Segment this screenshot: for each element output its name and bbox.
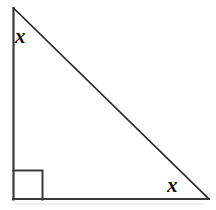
angle-label-top: x bbox=[15, 26, 26, 47]
triangle-drawing bbox=[0, 0, 216, 210]
right-angle-marker-icon bbox=[14, 171, 43, 200]
triangle-figure: x x bbox=[0, 0, 216, 210]
angle-label-bottom: x bbox=[167, 175, 178, 196]
